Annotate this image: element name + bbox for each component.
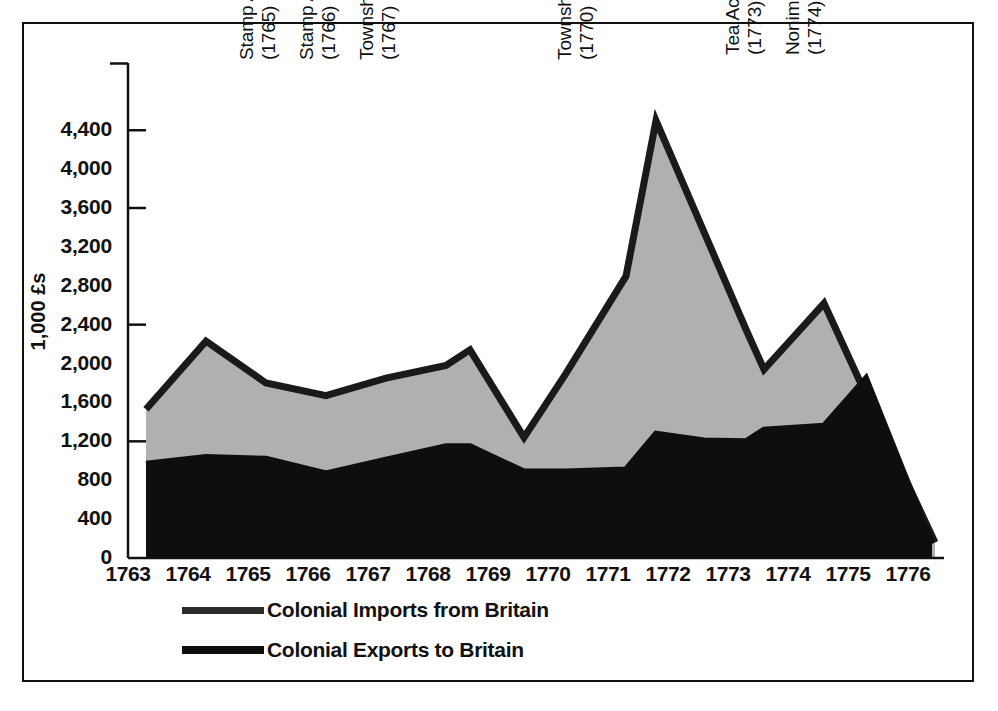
annotation-tea-act-passed-title: Tea Act Passed: [722, 0, 744, 55]
x-axis-tick-label: 1776: [871, 562, 945, 586]
y-axis-tick-label: 1,200: [22, 428, 112, 452]
legend-label-exports: Colonial Exports to Britain: [267, 638, 524, 662]
legend-swatch-imports: [182, 607, 264, 614]
legend-swatch-exports: [182, 646, 264, 654]
y-axis-tick-label: 800: [22, 467, 112, 491]
annotation-tea-act-passed-year: (1773): [744, 1, 766, 55]
annotation-stamp-act-passed-year: (1765): [258, 6, 280, 60]
annotation-nonimportation-agreements-title: Nonimportation Agreements: [782, 0, 804, 55]
annotation-stamp-act-repealed-title: Stamp Act Repealed: [296, 0, 318, 60]
annotation-nonimportation-agreements-year: (1774): [804, 1, 826, 55]
y-axis-title: 1,000 £s: [27, 252, 50, 372]
legend-item-imports: Colonial Imports from Britain: [182, 598, 549, 622]
y-axis-tick-label: 4,400: [22, 117, 112, 141]
legend-label-imports: Colonial Imports from Britain: [267, 598, 549, 622]
annotation-stamp-act-passed-title: Stamp Act Passed: [236, 0, 258, 60]
chart-figure: 4,4004,0003,6003,2002,8002,4002,0001,600…: [0, 0, 998, 711]
annotation-stamp-act-repealed-year: (1766): [318, 6, 340, 60]
y-axis-tick-label: 1,600: [22, 389, 112, 413]
y-axis-tick-label: 400: [22, 506, 112, 530]
legend-item-exports: Colonial Exports to Britain: [182, 638, 524, 662]
y-axis-tick-marks: [128, 130, 146, 441]
annotation-townshend-act-passed-title: Townshend Act Passed: [356, 0, 378, 60]
y-axis-tick-label: 3,600: [22, 195, 112, 219]
annotation-townshend-act-passed-year: (1767): [378, 6, 400, 60]
annotation-townshend-act-repealed-year: (1770): [576, 6, 598, 60]
annotation-townshend-act-repealed-title: Townshend Act Repealed: [554, 0, 576, 60]
y-axis-tick-label: 4,000: [22, 156, 112, 180]
